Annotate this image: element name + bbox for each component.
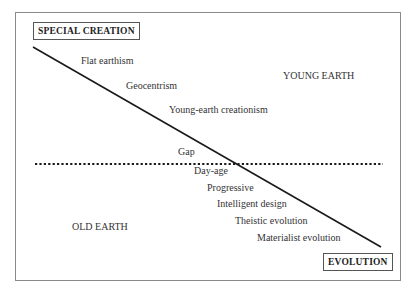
position-young-earth-creationism: Young-earth creationism (169, 104, 268, 116)
position-flat-earthism: Flat earthism (81, 55, 134, 67)
special-creation-box: SPECIAL CREATION (33, 22, 140, 40)
evolution-box: EVOLUTION (323, 253, 393, 271)
position-theistic-evolution: Theistic evolution (235, 215, 308, 227)
position-geocentrism: Geocentrism (126, 80, 177, 92)
position-intelligent-design: Intelligent design (217, 198, 287, 210)
region-old-earth: OLD EARTH (72, 221, 128, 233)
diagram-lines (0, 0, 413, 294)
position-progressive: Progressive (207, 182, 254, 194)
region-young-earth: YOUNG EARTH (283, 70, 354, 82)
position-gap: Gap (178, 146, 195, 158)
position-day-age: Day-age (194, 165, 228, 177)
position-materialist-evolution: Materialist evolution (257, 232, 341, 244)
